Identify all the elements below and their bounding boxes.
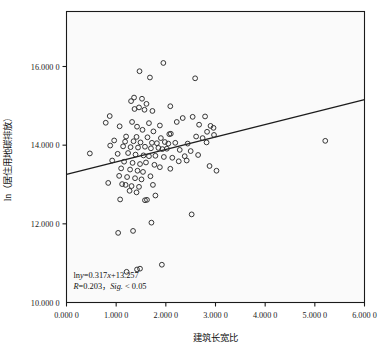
x-tick-label: 4.000 0: [253, 311, 278, 320]
y-tick-label: 10.000 0: [31, 299, 60, 308]
x-tick-label: 2.000 0: [154, 311, 179, 320]
scatter-chart: 0.000 01.000 02.000 03.000 04.000 05.000…: [0, 0, 380, 351]
plot-svg: 0.000 01.000 02.000 03.000 04.000 05.000…: [0, 0, 380, 351]
x-tick-label: 6.000 0: [352, 311, 377, 320]
x-tick-label: 3.000 0: [203, 311, 228, 320]
y-tick-label: 14.000 0: [31, 141, 60, 150]
y-axis-title: ln（居住用地碳排放）: [2, 113, 13, 201]
regression-equation: lny=0.317x+13.257: [73, 271, 138, 280]
regression-statistics: R=0.203，Sig. < 0.05: [72, 282, 146, 291]
y-tick-label: 12.000 0: [31, 220, 60, 229]
y-tick-label: 16.000 0: [31, 63, 60, 72]
x-tick-label: 1.000 0: [104, 311, 129, 320]
plot-area-background: [67, 12, 365, 303]
x-tick-label: 0.000 0: [54, 311, 79, 320]
x-tick-label: 5.000 0: [303, 311, 328, 320]
x-axis-title: 建筑长宽比: [193, 332, 238, 343]
